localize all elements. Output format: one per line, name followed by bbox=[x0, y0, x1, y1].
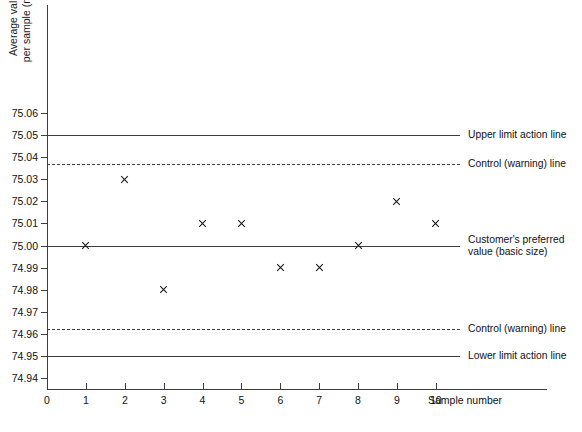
y-tick-mark bbox=[41, 378, 47, 379]
y-tick-mark bbox=[41, 179, 47, 180]
label-line: Upper limit action line bbox=[468, 129, 566, 142]
y-tick-mark bbox=[41, 290, 47, 291]
x-tick-label: 4 bbox=[191, 394, 215, 406]
data-point-marker bbox=[392, 197, 401, 206]
y-tick-label: 74.94 bbox=[0, 373, 38, 383]
y-tick-label: 74.95 bbox=[0, 351, 38, 361]
y-tick-label: 74.98 bbox=[0, 285, 38, 295]
data-point-marker bbox=[198, 219, 207, 228]
x-tick-mark bbox=[436, 383, 437, 389]
reference-line-upper-warning bbox=[47, 164, 460, 165]
label-preferred: Customer's preferredvalue (basic size) bbox=[468, 234, 564, 259]
y-tick-mark bbox=[41, 223, 47, 224]
x-tick-label: 3 bbox=[152, 394, 176, 406]
label-line: Lower limit action line bbox=[468, 350, 566, 363]
y-tick-label: 75.04 bbox=[0, 152, 38, 162]
label-lower-warning: Control (warning) line bbox=[468, 323, 566, 336]
label-line: Control (warning) line bbox=[468, 323, 566, 336]
y-tick-mark bbox=[41, 268, 47, 269]
x-tick-mark bbox=[164, 383, 165, 389]
y-tick-label: 74.96 bbox=[0, 329, 38, 339]
y-tick-mark bbox=[41, 113, 47, 114]
label-line: Customer's preferred bbox=[468, 234, 564, 247]
y-tick-mark bbox=[41, 157, 47, 158]
x-axis-line bbox=[47, 389, 547, 390]
y-tick-mark bbox=[41, 334, 47, 335]
y-axis-line bbox=[47, 5, 48, 389]
y-tick-label: 75.02 bbox=[0, 196, 38, 206]
y-tick-mark bbox=[41, 201, 47, 202]
y-tick-label: 74.99 bbox=[0, 263, 38, 273]
reference-line-preferred bbox=[47, 246, 460, 247]
data-point-marker bbox=[120, 175, 129, 184]
x-tick-mark bbox=[47, 383, 48, 389]
x-tick-mark bbox=[280, 383, 281, 389]
y-tick-mark bbox=[41, 312, 47, 313]
x-tick-label: 6 bbox=[268, 394, 292, 406]
x-tick-label: 9 bbox=[385, 394, 409, 406]
reference-line-lower-warning bbox=[47, 329, 460, 330]
data-point-marker bbox=[237, 219, 246, 228]
y-tick-label: 74.97 bbox=[0, 307, 38, 317]
x-axis-title: Sample number bbox=[428, 394, 502, 406]
x-tick-mark bbox=[203, 383, 204, 389]
label-upper-warning: Control (warning) line bbox=[468, 158, 566, 171]
y-tick-label: 75.05 bbox=[0, 130, 38, 140]
y-tick-label: 75.00 bbox=[0, 241, 38, 251]
data-point-marker bbox=[315, 263, 324, 272]
reference-line-upper-action bbox=[47, 135, 460, 136]
control-chart: Average value per sample (mm) 75.0675.05… bbox=[0, 0, 582, 432]
data-point-marker bbox=[276, 263, 285, 272]
label-line: value (basic size) bbox=[468, 246, 564, 259]
label-lower-action: Lower limit action line bbox=[468, 350, 566, 363]
x-tick-mark bbox=[86, 383, 87, 389]
reference-line-lower-action bbox=[47, 356, 460, 357]
data-point-marker bbox=[159, 285, 168, 294]
data-point-marker bbox=[431, 219, 440, 228]
x-tick-mark bbox=[125, 383, 126, 389]
y-tick-label: 75.03 bbox=[0, 174, 38, 184]
y-axis-title: Average value per sample (mm) bbox=[7, 0, 32, 78]
y-axis-title-line-1: Average value bbox=[7, 0, 20, 78]
x-tick-label: 7 bbox=[307, 394, 331, 406]
label-line: Control (warning) line bbox=[468, 158, 566, 171]
x-tick-mark bbox=[358, 383, 359, 389]
x-tick-label: 8 bbox=[346, 394, 370, 406]
y-tick-label: 75.01 bbox=[0, 218, 38, 228]
y-axis-title-line-2: per sample (mm) bbox=[19, 0, 32, 78]
y-tick-label: 75.06 bbox=[0, 108, 38, 118]
x-tick-mark bbox=[319, 383, 320, 389]
x-tick-label: 0 bbox=[35, 394, 59, 406]
x-tick-mark bbox=[241, 383, 242, 389]
x-tick-label: 5 bbox=[229, 394, 253, 406]
label-upper-action: Upper limit action line bbox=[468, 129, 566, 142]
x-tick-mark bbox=[397, 383, 398, 389]
x-tick-label: 2 bbox=[113, 394, 137, 406]
x-tick-label: 1 bbox=[74, 394, 98, 406]
